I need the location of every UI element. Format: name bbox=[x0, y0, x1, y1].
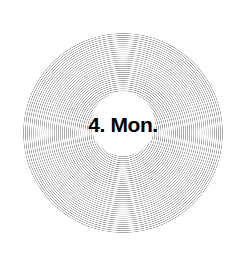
record-label-text: 4. Mon. bbox=[88, 114, 158, 135]
image-canvas: 4. Mon. bbox=[0, 0, 242, 265]
record-center-label: 4. Mon. bbox=[91, 92, 155, 156]
